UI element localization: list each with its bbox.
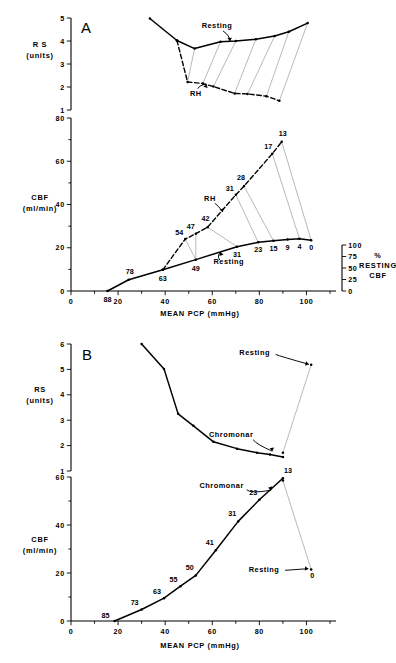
panelB-rs-axis-title: RS — [34, 385, 46, 394]
panelA-cbf-axis-units: (ml/min) — [23, 204, 57, 213]
panelB-rs-chromonar-point — [212, 441, 215, 444]
panelA-cbf-resting-point — [236, 245, 239, 248]
panelB-cbf-axis-units: (ml/min) — [23, 546, 57, 555]
panelA-cbf-rh-point — [206, 226, 209, 229]
y-tick-label: 3 — [60, 60, 65, 69]
panelA-cbf-resting-point — [286, 238, 289, 241]
panelA-cbf-rh-point — [235, 194, 238, 197]
panelB-cbf-chromonar-point — [282, 477, 285, 480]
panelB-cbf-chromonar-line — [115, 478, 283, 621]
panelB-cbf-chromonar-point — [195, 574, 198, 577]
panelA-cbf-rh-point — [162, 269, 165, 272]
panelA-cbf-rh-value: 13 — [279, 129, 287, 138]
y-tick-label: 0 — [348, 287, 353, 296]
panelB-rs-chromonar-leader — [253, 440, 272, 451]
panelA-rs-rh-point — [212, 85, 215, 88]
panelA-cbf-resting-value: 49 — [192, 264, 200, 273]
panelA-rs-resting-label: Resting — [202, 21, 233, 30]
y-tick-label: 75 — [348, 252, 357, 261]
panelA-rs-resting-point — [193, 47, 196, 50]
x-tick-label: 20 — [113, 627, 122, 636]
panelA-cbf-resting-point — [127, 279, 130, 282]
panelA-cbf-rh-value: 54 — [175, 228, 183, 237]
panelA-rs-connector — [213, 41, 235, 87]
panelA-cbf-resting-value: 4 — [297, 242, 301, 251]
panelA-rs-axis-units: (units) — [26, 51, 53, 60]
panelA-cbf-connector — [282, 142, 311, 240]
panelA-cbf-resting-value: 23 — [254, 245, 262, 254]
panelA-cbf-connector — [185, 239, 196, 260]
panelA-rs-connector — [266, 32, 288, 96]
x-tick-label: 40 — [161, 297, 170, 306]
panelA-cbf-resting-value: 0 — [309, 243, 313, 252]
panelB-cbf-chromonar-value: 73 — [131, 598, 139, 607]
x-tick-label: 40 — [161, 627, 170, 636]
panelB-rs-resting-label: Resting — [239, 348, 270, 357]
panelB-rs-resting-point — [310, 364, 313, 367]
panelA-rs-connector — [248, 36, 275, 94]
panelA-cbf-resting-value: 63 — [159, 274, 167, 283]
panelB-cbf-chromonar-value: 50 — [186, 563, 194, 572]
panelB-cbf-chromonar-value: 63 — [153, 587, 161, 596]
scientific-figure-svg: 54321R S(units)ARestingRH806040200020406… — [0, 0, 396, 663]
panelA-cbf-resting-point — [106, 290, 109, 293]
y-tick-label: 0 — [60, 617, 65, 626]
panelA-cbf-resting-value: 15 — [269, 244, 277, 253]
panelA-rs-axis-title: R S — [33, 40, 47, 49]
panelB-cbf-resting-point — [282, 479, 285, 482]
panelB-cbf-resting-line — [283, 481, 311, 570]
panelA-cbf-rh-point — [280, 141, 283, 144]
y-tick-label: 50 — [348, 264, 357, 273]
y-tick-label: 20 — [56, 569, 65, 578]
panelA-rs-rh-point — [186, 81, 189, 84]
y-tick-label: 5 — [60, 365, 65, 374]
panelA-rs-resting-point — [219, 40, 222, 43]
panelA-cbf-rh-point — [195, 232, 198, 235]
y-tick-label: 5 — [60, 14, 65, 23]
panelA-cbf-rh-point — [243, 185, 246, 188]
panelB-rs-chromonar-line — [142, 344, 283, 457]
panelA-rs-connector — [188, 49, 195, 82]
panelB-rs-axis-units: (units) — [26, 396, 53, 405]
panelA-cbf-resting-point — [298, 237, 301, 240]
panelA-cbf-resting-point — [310, 239, 313, 242]
panelA-rs-rh-point — [278, 100, 281, 103]
x-tick-label: 80 — [255, 627, 264, 636]
panelB-rs-chromonar-point — [269, 453, 272, 456]
panelA-cbf-rh-value: 47 — [187, 222, 195, 231]
x-tick-label: 100 — [300, 627, 314, 636]
panelA-cbf-connector — [208, 227, 237, 246]
panelA-rs-connector — [279, 23, 307, 101]
panelB-rs-chromonar-point — [177, 413, 180, 416]
panelA-rs-rh-point — [265, 95, 268, 98]
panelA-pct-axis-symbol: % — [374, 251, 381, 260]
panelA-cbf-resting-point — [257, 241, 260, 244]
panelB-rs-chromonar-point — [163, 368, 166, 371]
y-tick-label: 6 — [60, 340, 65, 349]
panelA-cbf-resting-value: 9 — [286, 243, 290, 252]
y-tick-label: 25 — [348, 275, 357, 284]
figure-container: 54321R S(units)ARestingRH806040200020406… — [0, 0, 396, 663]
panelB-cbf-chromonar-value: 13 — [284, 466, 292, 475]
panelA-cbf-resting-value: 88 — [103, 295, 111, 304]
panelB-cbf-chromonar-point — [113, 620, 116, 623]
panelA-cbf-resting-point — [272, 240, 275, 243]
panelA-cbf-rh-label: RH — [204, 194, 216, 203]
panelA-pct-axis-units: CBF — [369, 271, 386, 280]
y-tick-label: 80 — [56, 114, 65, 123]
panelA-rs-resting-point — [235, 40, 238, 43]
panelA-cbf-axis-title: CBF — [31, 193, 48, 202]
panelB-rs-resting-leader — [276, 354, 309, 364]
panelA-cbf-connector — [272, 154, 299, 239]
panelB-cbf-chromonar-point — [258, 499, 261, 502]
panelB-cbf-chromonar-point — [140, 608, 143, 611]
panelA-rs-rh-label: RH — [190, 89, 202, 98]
panelB-cbf-chromonar-point — [215, 549, 218, 552]
y-tick-label: 60 — [56, 473, 65, 482]
y-tick-label: 20 — [56, 243, 65, 252]
x-tick-label: 60 — [208, 297, 217, 306]
panelB-rs-chromonar-point — [140, 343, 143, 346]
y-tick-label: 4 — [60, 390, 65, 399]
y-tick-label: 100 — [348, 241, 362, 250]
panelB-rs-chromonar-point — [192, 425, 195, 428]
